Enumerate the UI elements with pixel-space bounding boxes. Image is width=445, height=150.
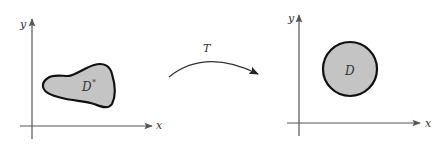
region-d-star: [43, 64, 115, 107]
left-x-axis-label: x: [156, 119, 163, 132]
transformation-arrow: T: [169, 42, 258, 77]
left-coordinate-plane: y x D *: [19, 18, 163, 139]
svg-text:D: D: [81, 80, 92, 94]
left-y-axis-label: y: [19, 18, 27, 31]
right-coordinate-plane: y x D: [287, 12, 432, 136]
transformation-diagram: y x D * T y x D: [0, 0, 445, 150]
right-y-axis-label: y: [287, 12, 295, 25]
svg-text:*: *: [92, 78, 96, 87]
region-d-label: D: [344, 64, 355, 78]
curved-arrow: [169, 62, 258, 77]
transformation-label: T: [203, 42, 212, 55]
right-x-axis-label: x: [425, 117, 432, 130]
